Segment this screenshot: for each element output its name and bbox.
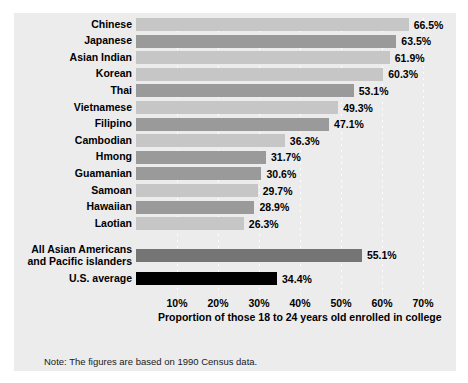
bar-value-label: 53.1%: [359, 85, 389, 97]
bar-value-label: 26.3%: [249, 218, 279, 230]
chart-note: Note: The figures are based on 1990 Cens…: [44, 356, 257, 367]
x-tick-label: 50%: [330, 297, 351, 309]
bar-row: Thai53.1%: [136, 84, 436, 97]
bar-value-label: 47.1%: [334, 118, 364, 130]
bar-category-label: All Asian Americansand Pacific islanders: [28, 244, 132, 267]
x-tick-label: 10%: [166, 297, 187, 309]
chart-figure: Chinese66.5%Japanese63.5%Asian Indian61.…: [0, 0, 468, 383]
bar: [136, 201, 254, 214]
bar: [136, 217, 244, 230]
bar-value-label: 36.3%: [290, 135, 320, 147]
bar-category-label: Laotian: [95, 218, 132, 230]
bar-value-label: 49.3%: [343, 102, 373, 114]
bar-value-label: 30.6%: [266, 168, 296, 180]
bar: [136, 151, 266, 164]
bar-row: Vietnamese49.3%: [136, 101, 436, 114]
bar-row: Guamanian30.6%: [136, 167, 436, 180]
bar-category-label: Guamanian: [75, 168, 132, 180]
bar-value-label: 55.1%: [367, 249, 397, 261]
bar-row: All Asian Americansand Pacific islanders…: [136, 249, 436, 262]
bar: [136, 51, 390, 64]
bar-value-label: 60.3%: [388, 68, 418, 80]
bar-category-label: Asian Indian: [70, 52, 132, 64]
bar-category-label: Japanese: [84, 35, 132, 47]
bar: [136, 35, 396, 48]
bar-category-label: Cambodian: [75, 135, 132, 147]
bar-category-label: Hmong: [96, 152, 132, 164]
bar-row: Japanese63.5%: [136, 35, 436, 48]
bar-row: U.S. average34.4%: [136, 272, 436, 285]
bar: [136, 167, 261, 180]
bar-row: Hmong31.7%: [136, 151, 436, 164]
bar-row: Samoan29.7%: [136, 184, 436, 197]
bar: [136, 184, 258, 197]
bar-value-label: 34.4%: [282, 273, 312, 285]
x-tick-label: 60%: [371, 297, 392, 309]
bar-row: Asian Indian61.9%: [136, 51, 436, 64]
bar-row: Laotian26.3%: [136, 217, 436, 230]
bar: [136, 101, 338, 114]
bar-value-label: 66.5%: [414, 19, 444, 31]
bar-category-label: Filipino: [95, 118, 132, 130]
bar-row: Korean60.3%: [136, 68, 436, 81]
bar: [136, 249, 362, 262]
bar-row: Filipino47.1%: [136, 118, 436, 131]
bar-value-label: 28.9%: [259, 201, 289, 213]
bar-category-label: Hawaiian: [86, 201, 132, 213]
bar-category-label: U.S. average: [69, 273, 132, 285]
bar: [136, 68, 383, 81]
bar-row: Chinese66.5%: [136, 18, 436, 31]
bar-value-label: 63.5%: [401, 35, 431, 47]
bar-value-label: 31.7%: [271, 151, 301, 163]
bar: [136, 18, 409, 31]
bar-category-label: Chinese: [91, 19, 132, 31]
bar: [136, 134, 285, 147]
bar-row: Hawaiian28.9%: [136, 201, 436, 214]
x-tick-label: 40%: [289, 297, 310, 309]
bar-row: Cambodian36.3%: [136, 134, 436, 147]
bar-value-label: 61.9%: [395, 52, 425, 64]
x-tick-label: 20%: [207, 297, 228, 309]
bar-category-label: Thai: [110, 85, 132, 97]
x-tick-label: 30%: [248, 297, 269, 309]
bar-category-label: Vietnamese: [74, 102, 132, 114]
plot-area: Chinese66.5%Japanese63.5%Asian Indian61.…: [136, 18, 436, 295]
chart-panel: Chinese66.5%Japanese63.5%Asian Indian61.…: [14, 13, 456, 371]
x-tick-label: 70%: [412, 297, 433, 309]
bar: [136, 84, 354, 97]
bar-category-label: Korean: [96, 69, 132, 81]
bar-value-label: 29.7%: [263, 185, 293, 197]
bar: [136, 118, 329, 131]
bar-category-label: Samoan: [91, 185, 132, 197]
bar: [136, 272, 277, 285]
x-axis-label: Proportion of those 18 to 24 years old e…: [158, 311, 442, 323]
